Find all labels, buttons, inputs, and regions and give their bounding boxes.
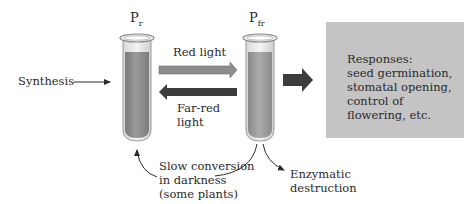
slow-conversion-line3: (some plants) (159, 188, 238, 202)
enzymatic-line2: destruction (290, 182, 357, 196)
responses-line4: control of (347, 94, 452, 108)
enzymatic-line1: Enzymatic (290, 168, 351, 182)
pfr-label: Pfr (249, 10, 265, 28)
synthesis-label: Synthesis (18, 75, 74, 89)
red-light-label: Red light (173, 46, 226, 60)
responses-line3: stomatal opening, (347, 80, 452, 94)
responses-line5: flowering, etc. (347, 108, 452, 122)
slow-conversion-line2: in darkness (159, 174, 226, 188)
to-responses-arrow (283, 68, 313, 92)
responses-box: Responses: seed germination, stomatal op… (326, 22, 464, 138)
phytochrome-diagram: Pr Pfr Synthesis Red light Far-red light… (0, 0, 474, 204)
slow-conversion-line1: Slow conversion (159, 160, 254, 174)
responses-text: Responses: seed germination, stomatal op… (347, 52, 452, 122)
responses-line1: Responses: (347, 52, 452, 66)
pr-label: Pr (130, 10, 143, 28)
red-light-arrow (159, 62, 237, 78)
far-red-light-label-line2: light (177, 116, 204, 130)
responses-line2: seed germination, (347, 66, 452, 80)
enzymatic-destruction-arrow (263, 144, 284, 170)
far-red-light-arrow (159, 84, 237, 100)
pr-tube (120, 34, 154, 141)
pfr-tube (243, 34, 277, 141)
far-red-light-label-line1: Far-red (177, 102, 220, 116)
